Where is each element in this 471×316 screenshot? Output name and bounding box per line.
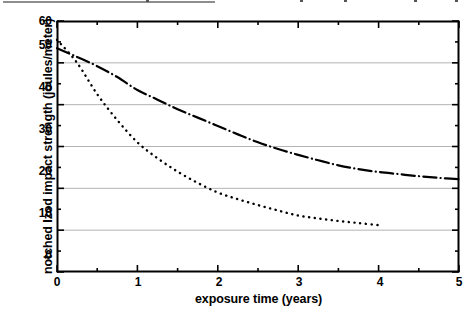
data-series-group — [57, 40, 459, 225]
plot-canvas — [0, 0, 471, 316]
series-line-1 — [57, 40, 379, 225]
series-line-0 — [57, 48, 459, 179]
chart-figure: notched Izod impact strength (joules/met… — [0, 0, 471, 316]
